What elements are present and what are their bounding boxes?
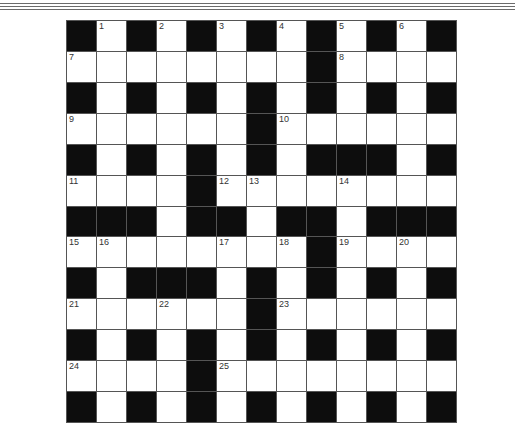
grid-cell[interactable]: 11 [67, 176, 96, 206]
grid-cell[interactable]: 6 [397, 21, 426, 51]
grid-cell[interactable] [337, 392, 366, 422]
grid-cell[interactable] [217, 268, 246, 298]
grid-cell[interactable] [97, 145, 126, 175]
grid-cell[interactable]: 14 [337, 176, 366, 206]
grid-cell[interactable] [277, 268, 306, 298]
grid-cell[interactable] [97, 330, 126, 360]
grid-cell[interactable]: 22 [157, 299, 186, 329]
grid-cell[interactable] [277, 392, 306, 422]
grid-cell[interactable] [97, 268, 126, 298]
grid-cell[interactable] [127, 176, 156, 206]
grid-cell[interactable] [127, 52, 156, 82]
grid-cell[interactable] [97, 176, 126, 206]
grid-cell[interactable] [187, 299, 216, 329]
grid-cell[interactable] [217, 83, 246, 113]
grid-cell[interactable]: 2 [157, 21, 186, 51]
grid-cell[interactable] [247, 361, 276, 391]
grid-cell[interactable] [397, 52, 426, 82]
grid-cell[interactable]: 4 [277, 21, 306, 51]
grid-cell[interactable] [337, 207, 366, 237]
grid-cell[interactable]: 24 [67, 361, 96, 391]
grid-cell[interactable] [127, 299, 156, 329]
grid-cell[interactable] [307, 361, 336, 391]
grid-cell[interactable]: 9 [67, 114, 96, 144]
grid-cell[interactable] [277, 176, 306, 206]
grid-cell[interactable] [97, 52, 126, 82]
grid-cell[interactable] [97, 114, 126, 144]
grid-cell[interactable]: 15 [67, 237, 96, 267]
grid-cell[interactable] [367, 361, 396, 391]
grid-cell[interactable] [217, 299, 246, 329]
grid-cell[interactable] [277, 361, 306, 391]
grid-cell[interactable]: 1 [97, 21, 126, 51]
grid-cell[interactable] [337, 83, 366, 113]
grid-cell[interactable] [337, 299, 366, 329]
grid-cell[interactable] [397, 299, 426, 329]
grid-cell[interactable] [337, 361, 366, 391]
grid-cell[interactable] [277, 83, 306, 113]
grid-cell[interactable] [187, 52, 216, 82]
grid-cell[interactable]: 12 [217, 176, 246, 206]
grid-cell[interactable] [157, 361, 186, 391]
grid-cell[interactable] [367, 52, 396, 82]
grid-cell[interactable] [307, 299, 336, 329]
grid-cell[interactable] [427, 361, 456, 391]
grid-cell[interactable]: 25 [217, 361, 246, 391]
grid-cell[interactable] [367, 299, 396, 329]
grid-cell[interactable]: 21 [67, 299, 96, 329]
grid-cell[interactable] [217, 145, 246, 175]
grid-cell[interactable] [217, 330, 246, 360]
grid-cell[interactable] [367, 114, 396, 144]
grid-cell[interactable]: 20 [397, 237, 426, 267]
grid-cell[interactable] [427, 299, 456, 329]
grid-cell[interactable] [127, 114, 156, 144]
grid-cell[interactable] [157, 330, 186, 360]
grid-cell[interactable] [217, 392, 246, 422]
grid-cell[interactable]: 23 [277, 299, 306, 329]
grid-cell[interactable] [397, 392, 426, 422]
grid-cell[interactable] [337, 114, 366, 144]
grid-cell[interactable]: 17 [217, 237, 246, 267]
grid-cell[interactable] [157, 176, 186, 206]
grid-cell[interactable] [307, 176, 336, 206]
grid-cell[interactable] [277, 52, 306, 82]
grid-cell[interactable] [157, 83, 186, 113]
grid-cell[interactable] [397, 145, 426, 175]
grid-cell[interactable] [307, 114, 336, 144]
grid-cell[interactable] [247, 237, 276, 267]
grid-cell[interactable] [187, 237, 216, 267]
grid-cell[interactable] [367, 237, 396, 267]
grid-cell[interactable] [217, 52, 246, 82]
grid-cell[interactable] [187, 114, 216, 144]
grid-cell[interactable]: 5 [337, 21, 366, 51]
grid-cell[interactable] [427, 176, 456, 206]
grid-cell[interactable] [427, 114, 456, 144]
grid-cell[interactable]: 3 [217, 21, 246, 51]
grid-cell[interactable] [337, 268, 366, 298]
grid-cell[interactable] [217, 114, 246, 144]
grid-cell[interactable] [277, 145, 306, 175]
grid-cell[interactable]: 7 [67, 52, 96, 82]
grid-cell[interactable]: 18 [277, 237, 306, 267]
grid-cell[interactable] [367, 176, 396, 206]
grid-cell[interactable] [157, 207, 186, 237]
grid-cell[interactable]: 16 [97, 237, 126, 267]
grid-cell[interactable] [97, 83, 126, 113]
grid-cell[interactable] [247, 207, 276, 237]
grid-cell[interactable] [127, 361, 156, 391]
grid-cell[interactable] [397, 361, 426, 391]
grid-cell[interactable]: 13 [247, 176, 276, 206]
grid-cell[interactable]: 8 [337, 52, 366, 82]
grid-cell[interactable] [127, 237, 156, 267]
grid-cell[interactable] [157, 52, 186, 82]
grid-cell[interactable] [97, 392, 126, 422]
grid-cell[interactable] [337, 330, 366, 360]
grid-cell[interactable] [397, 330, 426, 360]
grid-cell[interactable] [397, 83, 426, 113]
grid-cell[interactable] [97, 299, 126, 329]
grid-cell[interactable] [397, 176, 426, 206]
grid-cell[interactable]: 19 [337, 237, 366, 267]
grid-cell[interactable] [397, 114, 426, 144]
grid-cell[interactable] [157, 145, 186, 175]
grid-cell[interactable] [157, 237, 186, 267]
